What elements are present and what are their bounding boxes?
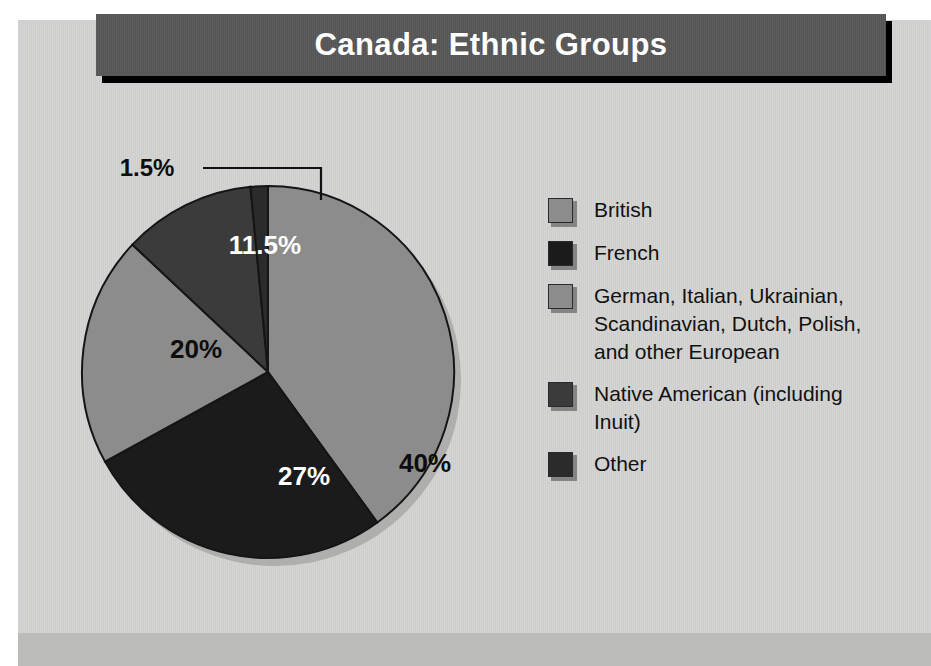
legend-swatch-fill xyxy=(548,452,573,477)
legend-item-other[interactable]: Other xyxy=(548,450,888,479)
page-title: Canada: Ethnic Groups xyxy=(315,27,668,63)
slice-label-other: 1.5% xyxy=(120,154,175,181)
legend-swatch-fill xyxy=(548,198,573,223)
slice-label-french: 27% xyxy=(278,461,330,491)
title-banner-fill: Canada: Ethnic Groups xyxy=(96,14,886,76)
legend-label-british: British xyxy=(594,196,652,224)
legend-swatch-fill xyxy=(548,382,573,407)
slice-label-german: 20% xyxy=(170,334,222,364)
legend-label-french: French xyxy=(594,239,659,267)
legend-label-european: German, Italian, Ukrainian, Scandinavian… xyxy=(594,282,884,366)
legend-swatch-european xyxy=(548,284,575,311)
legend-item-native-american[interactable]: Native American (including Inuit) xyxy=(548,380,888,436)
legend-item-french[interactable]: French xyxy=(548,239,888,268)
page-root: Canada: Ethnic Groups 40% 27% 20% 11.5% … xyxy=(0,0,931,666)
legend-swatch-fill xyxy=(548,241,573,266)
legend-item-british[interactable]: British xyxy=(548,196,888,225)
page-bottom-band xyxy=(18,633,931,666)
slice-label-native-american: 11.5% xyxy=(229,230,301,260)
legend-swatch-fill xyxy=(548,284,573,309)
legend-swatch-native-american xyxy=(548,382,575,409)
slice-label-british: 40% xyxy=(399,448,451,478)
legend-label-other: Other xyxy=(594,450,647,478)
pie-chart-svg: 40% 27% 20% 11.5% 1.5% xyxy=(55,130,500,580)
legend-swatch-british xyxy=(548,198,575,225)
legend-item-european[interactable]: German, Italian, Ukrainian, Scandinavian… xyxy=(548,282,888,366)
legend-label-native-american: Native American (including Inuit) xyxy=(594,380,884,436)
pie-chart: 40% 27% 20% 11.5% 1.5% xyxy=(55,130,500,580)
chart-legend: British French German, Italian, Ukrainia… xyxy=(548,196,888,493)
title-banner: Canada: Ethnic Groups xyxy=(96,14,886,76)
legend-swatch-french xyxy=(548,241,575,268)
legend-swatch-other xyxy=(548,452,575,479)
